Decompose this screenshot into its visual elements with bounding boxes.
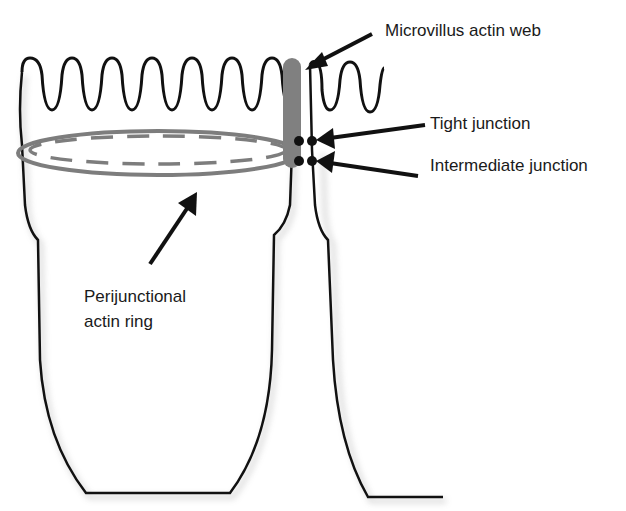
label-perijunctional-line1: Perijunctional	[84, 286, 186, 308]
label-tight-junction: Tight junction	[430, 113, 530, 135]
microvilli	[22, 58, 292, 110]
actin-ring-inner	[30, 136, 286, 164]
right-microvilli	[310, 61, 384, 112]
label-intermediate-junction: Intermediate junction	[430, 155, 588, 177]
label-perijunctional-line2: actin ring	[84, 311, 153, 333]
actin-ring-outer	[18, 131, 298, 175]
actin-web-bar	[283, 58, 301, 168]
epithelial-cell-diagram	[0, 0, 626, 511]
label-microvillus-actin-web: Microvillus actin web	[385, 20, 541, 42]
